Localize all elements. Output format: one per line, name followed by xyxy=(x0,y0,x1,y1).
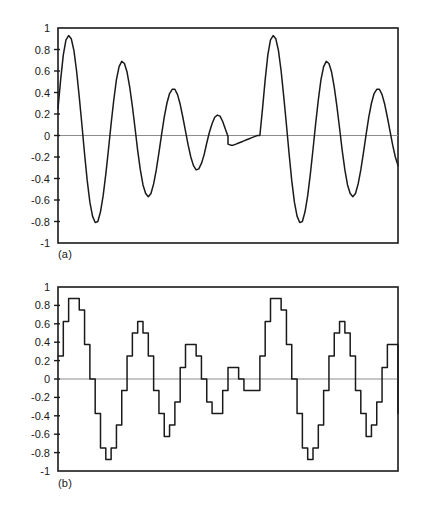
panel-a-analog-signal: 10.80.60.40.20-0.2-0.4-0.6-0.8-1 xyxy=(0,0,423,272)
y-axis-tick-label: -0.8 xyxy=(31,447,50,459)
y-axis-tick-label: 0.6 xyxy=(35,318,50,330)
y-axis-tick-label: -0.6 xyxy=(31,194,50,206)
y-axis-tick-label: -0.8 xyxy=(31,216,50,228)
y-axis-tick-label: -0.4 xyxy=(31,410,50,422)
y-axis-tick-label: 0.2 xyxy=(35,355,50,367)
y-axis-tick-label: -1 xyxy=(40,237,50,249)
y-axis-tick-label: 0.6 xyxy=(35,65,50,77)
y-axis-tick-label: 1 xyxy=(44,281,50,293)
y-axis-tick-label: -0.2 xyxy=(31,151,50,163)
y-axis-tick-label: -0.2 xyxy=(31,391,50,403)
y-axis-tick-label: 0.2 xyxy=(35,108,50,120)
y-axis-tick-label: 0 xyxy=(44,130,50,142)
waveform-trace xyxy=(58,36,398,223)
panel-a-plot: 10.80.60.40.20-0.2-0.4-0.6-0.8-1 xyxy=(0,0,423,272)
y-axis-tick-label: 0.8 xyxy=(35,299,50,311)
signal-quantization-figure: 10.80.60.40.20-0.2-0.4-0.6-0.8-1 (a) 10.… xyxy=(0,0,423,509)
y-axis-tick-label: 0.4 xyxy=(35,87,50,99)
panel-b-plot: 10.80.60.40.20-0.2-0.4-0.6-0.8-1 xyxy=(0,259,423,509)
y-axis-tick-label: 0 xyxy=(44,373,50,385)
y-axis-tick-label: -0.6 xyxy=(31,428,50,440)
panel-b-quantized-signal: 10.80.60.40.20-0.2-0.4-0.6-0.8-1 xyxy=(0,259,423,509)
y-axis-tick-label: 0.4 xyxy=(35,336,50,348)
panel-b-caption: (b) xyxy=(58,477,72,489)
y-axis-tick-label: -1 xyxy=(40,465,50,477)
y-axis-tick-label: 0.8 xyxy=(35,44,50,56)
y-axis-tick-label: 1 xyxy=(44,22,50,34)
y-axis-tick-label: -0.4 xyxy=(31,173,50,185)
